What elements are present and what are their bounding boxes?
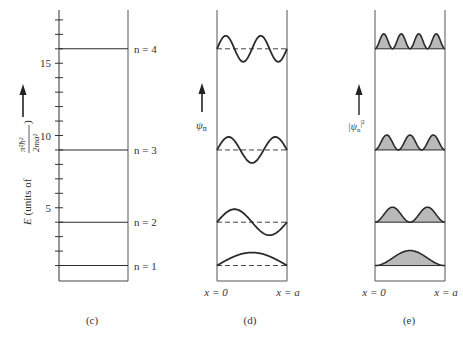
energy-units-denominator: 2ma² [31, 134, 41, 152]
svg-text:E (units of: E (units of [21, 178, 34, 226]
panel-d-caption: (d) [244, 314, 257, 327]
energy-level-label-n1: n = 1 [134, 260, 157, 272]
panel-e-x-left-label: x = 0 [361, 286, 386, 298]
panel-e-x-right-label: x = a [433, 286, 458, 298]
tick-label: 15 [40, 57, 52, 69]
psi-squared-arrow-icon [356, 84, 363, 115]
panel-d-wavefunctions: ψn x = 0 x = a (d) [196, 10, 300, 327]
wavefunction-curves [217, 36, 287, 266]
panel-e-probability-densities: |ψn|² x = 0 x = a (e) [348, 10, 458, 327]
energy-level-lines: n = 1n = 2n = 3n = 4 [59, 43, 157, 272]
energy-level-label-n2: n = 2 [134, 216, 157, 228]
panel-d-x-right-label: x = a [275, 286, 300, 298]
particle-in-box-figure: 51015 n = 1n = 2n = 3n = 4 E (units of π… [0, 0, 463, 341]
tick-label: 10 [40, 130, 52, 142]
wavefunction-n1 [217, 253, 287, 266]
density-fill-n2 [375, 207, 445, 222]
probability-density-curves [375, 34, 445, 266]
energy-units-prefix: (units of [21, 178, 34, 218]
energy-arrow-icon [20, 84, 27, 117]
energy-axis-tick-labels: 51015 [40, 57, 52, 214]
psi-arrow-icon [199, 83, 206, 112]
energy-units-suffix: ) [21, 120, 34, 124]
energy-units-numerator: π²ħ² [17, 137, 27, 152]
psi-squared-axis-label: |ψn|² [348, 119, 365, 134]
panel-d-x-left-label: x = 0 [203, 286, 228, 298]
panel-c-energy-levels: 51015 n = 1n = 2n = 3n = 4 E (units of π… [17, 10, 157, 327]
panel-c-caption: (c) [86, 314, 99, 327]
panel-e-caption: (e) [403, 314, 416, 327]
density-fill-n3 [375, 135, 445, 150]
energy-level-label-n3: n = 3 [134, 144, 157, 156]
energy-axis-title: E (units of π²ħ² 2ma² ) [17, 120, 41, 226]
energy-level-label-n4: n = 4 [134, 43, 157, 55]
psi-axis-label: ψn [196, 119, 207, 133]
tick-label: 5 [46, 202, 52, 214]
